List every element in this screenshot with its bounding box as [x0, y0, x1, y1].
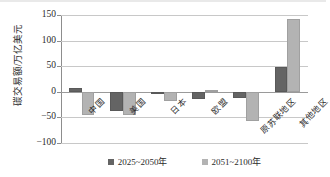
bar-其他地区-series-1 [287, 19, 300, 92]
chart-legend: 2025~2050年2051~2100年 [61, 155, 308, 168]
bar-欧盟-series-0 [192, 92, 205, 99]
y-tick-label: 150 [22, 10, 56, 20]
y-tick-label: 100 [22, 36, 56, 46]
bar-其他地区-series-0 [275, 67, 288, 92]
y-axis-tick-labels: 150100500−50−100 [22, 0, 56, 177]
bar-美国-series-0 [110, 92, 123, 111]
y-tick-label: 0 [22, 87, 56, 97]
gridline [61, 143, 308, 144]
bar-欧盟-series-1 [205, 90, 218, 92]
legend-label: 2051~2100年 [212, 155, 262, 168]
legend-entry-1[interactable]: 2051~2100年 [202, 155, 262, 168]
legend-swatch-icon-1 [202, 159, 208, 165]
y-tick-label: −50 [22, 112, 56, 122]
legend-swatch-icon-0 [108, 159, 114, 165]
bar-日本-series-0 [151, 92, 164, 94]
bar-原苏联地区-series-1 [246, 92, 259, 122]
y-tick-mark [57, 143, 61, 144]
y-tick-label: 50 [22, 61, 56, 71]
legend-label: 2025~2050年 [118, 155, 168, 168]
bar-原苏联地区-series-0 [233, 92, 246, 98]
bar-中国-series-0 [69, 88, 82, 92]
legend-entry-0[interactable]: 2025~2050年 [108, 155, 168, 168]
y-tick-label: −100 [22, 138, 56, 148]
